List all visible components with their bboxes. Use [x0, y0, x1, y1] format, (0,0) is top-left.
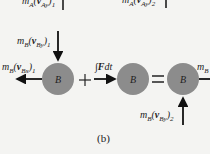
- body-label-1: B: [48, 74, 68, 85]
- label-mB-vBy2: mB(vBy)2: [140, 110, 174, 123]
- body-label-2: B: [123, 74, 143, 85]
- figure-caption: (b): [97, 132, 110, 144]
- label-impulse: ∫Fdt: [95, 62, 112, 72]
- label-mB-vBy1: mB(vBy)1: [17, 36, 51, 49]
- label-mA-vAy1: mA(vAy)1: [22, 0, 55, 9]
- label-mB-vBx1: mB(vBx)1: [2, 62, 36, 75]
- label-mA-vAy2: mA(vAy)2: [122, 0, 155, 8]
- label-mB-right: mB: [197, 62, 209, 75]
- body-label-3: B: [173, 74, 193, 85]
